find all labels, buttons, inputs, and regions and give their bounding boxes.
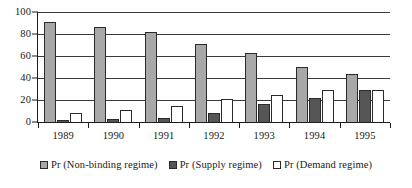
bar-group-1995 bbox=[340, 12, 390, 122]
y-tick-label-20: 20 bbox=[20, 95, 31, 106]
legend-label-3: Pr (Demand regime) bbox=[284, 160, 372, 171]
y-tick-label-40: 40 bbox=[20, 73, 31, 84]
bar-1992-series-3 bbox=[221, 99, 233, 122]
bar-1994-series-1 bbox=[296, 67, 308, 122]
chart-legend: Pr (Non-binding regime)Pr (Supply regime… bbox=[0, 160, 412, 171]
y-tick-label-80: 80 bbox=[20, 29, 31, 40]
x-axis-label-1993: 1993 bbox=[239, 128, 289, 144]
legend-swatch-icon-1 bbox=[40, 161, 48, 169]
plot-area bbox=[38, 12, 390, 122]
bar-group-1993 bbox=[239, 12, 289, 122]
x-axis-label-1990: 1990 bbox=[88, 128, 138, 144]
y-tick-label-0: 0 bbox=[26, 117, 31, 128]
x-axis-label-1991: 1991 bbox=[139, 128, 189, 144]
bar-1994-series-3 bbox=[322, 90, 334, 122]
y-tick-label-100: 100 bbox=[15, 7, 31, 18]
bar-1991-series-1 bbox=[145, 32, 157, 122]
bar-1993-series-1 bbox=[245, 53, 257, 122]
bar-1995-series-3 bbox=[372, 90, 384, 122]
x-axis-label-1995: 1995 bbox=[340, 128, 390, 144]
bar-1990-series-1 bbox=[94, 27, 106, 122]
bar-1992-series-1 bbox=[195, 44, 207, 122]
y-tick-label-60: 60 bbox=[20, 51, 31, 62]
bar-1993-series-2 bbox=[258, 104, 270, 122]
bar-group-1994 bbox=[289, 12, 339, 122]
x-axis-label-1994: 1994 bbox=[289, 128, 339, 144]
bar-1995-series-2 bbox=[359, 90, 371, 122]
bar-group-1989 bbox=[38, 12, 88, 122]
y-axis-line bbox=[37, 12, 38, 123]
legend-label-1: Pr (Non-binding regime) bbox=[51, 160, 158, 171]
x-tick-mark-7 bbox=[390, 123, 391, 128]
bar-1995-series-1 bbox=[346, 74, 358, 122]
x-axis-label-1989: 1989 bbox=[38, 128, 88, 144]
bar-1993-series-3 bbox=[271, 95, 283, 123]
bar-1990-series-3 bbox=[120, 110, 132, 122]
legend-item-2[interactable]: Pr (Supply regime) bbox=[169, 160, 262, 171]
bar-group-1992 bbox=[189, 12, 239, 122]
bar-groups bbox=[38, 12, 390, 122]
bar-1991-series-3 bbox=[171, 106, 183, 123]
bar-1989-series-3 bbox=[70, 113, 82, 122]
x-axis-labels: 1989199019911992199319941995 bbox=[38, 128, 390, 144]
bar-1994-series-2 bbox=[309, 98, 321, 122]
bar-group-1991 bbox=[139, 12, 189, 122]
bar-group-1990 bbox=[88, 12, 138, 122]
legend-swatch-icon-3 bbox=[273, 161, 281, 169]
legend-swatch-icon-2 bbox=[169, 161, 177, 169]
x-axis-label-1992: 1992 bbox=[189, 128, 239, 144]
bar-1989-series-1 bbox=[44, 22, 56, 122]
bar-chart-figure: 020406080100 198919901991199219931994199… bbox=[0, 0, 412, 188]
legend-item-3[interactable]: Pr (Demand regime) bbox=[273, 160, 372, 171]
bar-1992-series-2 bbox=[208, 113, 220, 122]
legend-item-1[interactable]: Pr (Non-binding regime) bbox=[40, 160, 158, 171]
legend-label-2: Pr (Supply regime) bbox=[180, 160, 262, 171]
